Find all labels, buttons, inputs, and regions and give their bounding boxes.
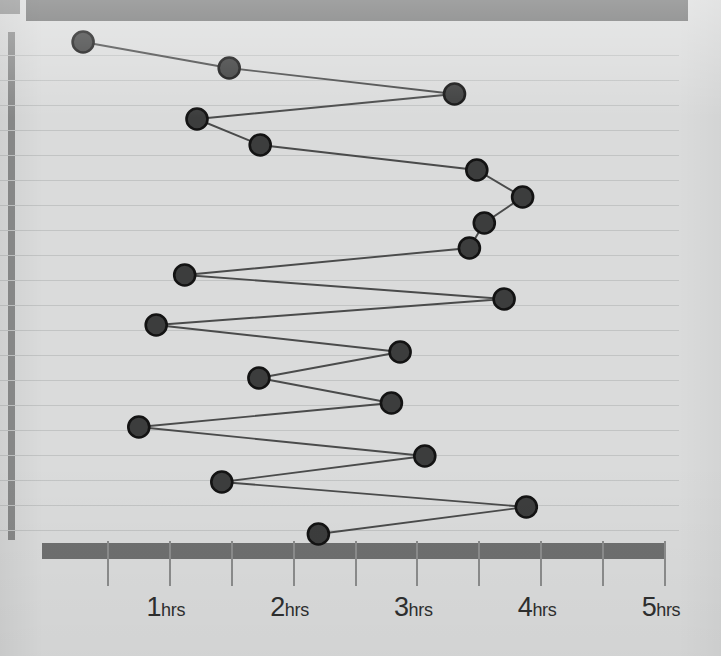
- data-point[interactable]: [248, 368, 269, 389]
- series-chart: [0, 0, 721, 656]
- data-point[interactable]: [211, 472, 232, 493]
- data-point[interactable]: [466, 160, 487, 181]
- data-point[interactable]: [459, 238, 480, 259]
- data-point[interactable]: [390, 342, 411, 363]
- data-point[interactable]: [444, 84, 465, 105]
- data-point[interactable]: [516, 497, 537, 518]
- data-point[interactable]: [146, 315, 167, 336]
- data-point[interactable]: [494, 289, 515, 310]
- data-point[interactable]: [128, 417, 149, 438]
- data-point[interactable]: [187, 109, 208, 130]
- data-point[interactable]: [414, 446, 435, 467]
- data-point[interactable]: [512, 187, 533, 208]
- data-point[interactable]: [381, 393, 402, 414]
- data-point[interactable]: [474, 213, 495, 234]
- chart-screenshot: 1hrs2hrs3hrs4hrs5hrs: [0, 0, 721, 656]
- data-point[interactable]: [174, 265, 195, 286]
- data-point[interactable]: [250, 135, 271, 156]
- data-point[interactable]: [219, 58, 240, 79]
- data-point[interactable]: [73, 32, 94, 53]
- series-line: [83, 42, 526, 534]
- data-point[interactable]: [308, 524, 329, 545]
